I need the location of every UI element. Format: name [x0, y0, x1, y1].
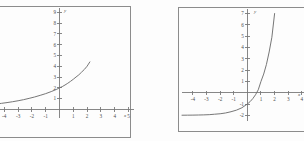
left-graph-y-tick-label: 1	[53, 95, 56, 101]
left-graph-axes	[0, 8, 134, 118]
left-graph-x-tick-label: 5	[127, 113, 130, 119]
left-graph-x-tick-label: -3	[16, 113, 21, 119]
right-graph-y-tick-label: 1	[241, 78, 244, 84]
left-graph-x-tick-label: 1	[72, 113, 75, 119]
right-graph-x-tick-label: -2	[218, 96, 223, 102]
left-graph-x-tick-label: 2	[86, 113, 89, 119]
right-graph-x-tick-label: 3	[287, 96, 290, 102]
left-graph-curve	[0, 62, 90, 104]
left-graph-y-tick-label: 3	[53, 74, 56, 80]
left-graph-x-tick-label: 4	[113, 113, 116, 119]
left-graph-ticks	[4, 12, 128, 111]
left-graph-x-tick-label: 3	[100, 113, 103, 119]
left-graph-y-tick-label: 6	[53, 42, 56, 48]
right-graph-y-tick-label: 2	[241, 67, 244, 73]
right-graph-x-tick-label: -4	[191, 96, 196, 102]
left-graph-y-tick-label: 9	[53, 9, 56, 15]
left-graph-x-tick-label: -1	[44, 113, 49, 119]
right-graph-y-tick-label: 5	[241, 33, 244, 39]
figure-page: -4-3-2-112345123456789 x y -4-3-2-11234-…	[0, 0, 304, 141]
left-graph-y-tick-label: 8	[53, 20, 56, 26]
left-graph-figure: -4-3-2-112345123456789 x y	[0, 0, 134, 141]
left-graph-y-tick-label: 4	[53, 63, 56, 69]
right-graph-figure: -4-3-2-11234-2-11234567 x y	[176, 0, 304, 141]
left-graph-y-tick-label: 5	[53, 52, 56, 58]
right-graph-y-tick-label: 4	[241, 44, 244, 50]
right-graph-x-tick-label: -3	[204, 96, 209, 102]
right-graph-y-axis-label: y	[253, 9, 257, 14]
right-graph-y-tick-label: 6	[241, 22, 244, 28]
left-graph-x-tick-label: -4	[2, 113, 7, 119]
right-graph-x-tick-label: 4	[301, 96, 304, 102]
left-graph-canvas: -4-3-2-112345123456789 x y	[0, 0, 134, 141]
right-graph-y-tick-label: -2	[240, 112, 245, 118]
right-graph-x-tick-label: 1	[260, 96, 263, 102]
right-graph-x-tick-label: -1	[232, 96, 237, 102]
right-graph-x-tick-label: 2	[273, 96, 276, 102]
right-graph-y-tick-label: 7	[241, 10, 244, 16]
right-graph-canvas: -4-3-2-11234-2-11234567 x y	[176, 0, 304, 141]
left-graph-tick-labels: -4-3-2-112345123456789	[2, 9, 130, 119]
right-graph-y-tick-label: 3	[241, 56, 244, 62]
left-graph-y-axis-label: y	[63, 8, 67, 13]
left-graph-x-tick-label: -2	[30, 113, 35, 119]
left-graph-y-tick-label: 7	[53, 31, 56, 37]
